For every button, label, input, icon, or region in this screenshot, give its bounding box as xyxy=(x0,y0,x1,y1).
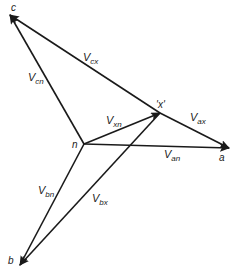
label-v-xn: Vxn xyxy=(106,114,122,129)
phasor-diagram: c n 'x' a b Vcx Vcn Vxn Vax Van Vbn Vbx xyxy=(0,0,241,279)
vector-v-cx xyxy=(10,15,160,113)
point-label-a: a xyxy=(219,152,225,163)
point-label-n: n xyxy=(72,139,78,150)
label-v-an: Van xyxy=(164,148,181,163)
point-label-b: b xyxy=(8,255,14,266)
label-v-bx: Vbx xyxy=(92,192,109,207)
label-v-ax: Vax xyxy=(190,111,207,126)
vector-v-cn xyxy=(10,15,84,144)
point-label-c: c xyxy=(11,2,16,13)
point-label-x: 'x' xyxy=(156,99,166,110)
vector-v-an xyxy=(84,144,229,148)
vector-v-bn xyxy=(20,144,84,265)
label-v-cn: Vcn xyxy=(28,71,44,86)
label-v-bn: Vbn xyxy=(38,184,55,199)
vector-v-xn xyxy=(84,113,160,144)
